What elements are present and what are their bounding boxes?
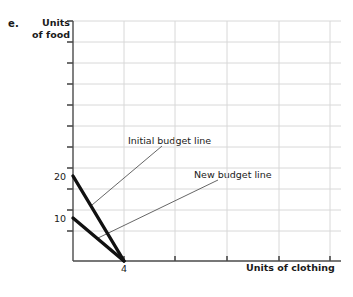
y-axis-tick-marks: [67, 21, 73, 231]
x-axis-tick-marks: [124, 256, 330, 261]
budget-line-chart-figure: e. Units of food Units of clothing 20 10…: [0, 0, 353, 297]
series-new-budget-line: [73, 218, 124, 261]
leader-line-initial: [92, 146, 162, 205]
axis-lines: [73, 21, 341, 261]
plot-canvas: [0, 0, 353, 297]
grid-lines-vertical: [124, 21, 330, 261]
grid-lines-horizontal: [73, 21, 341, 231]
